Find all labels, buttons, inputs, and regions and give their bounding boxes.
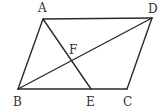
label-b: B	[13, 95, 22, 109]
segment-bd-diagonal	[18, 18, 152, 89]
label-d: D	[148, 2, 158, 16]
label-f: F	[69, 43, 77, 57]
label-e: E	[86, 95, 95, 109]
parallelogram-diagram: A D F B E C	[0, 0, 168, 112]
label-c: C	[123, 95, 132, 109]
label-a: A	[37, 1, 47, 15]
segment-da	[43, 18, 152, 19]
